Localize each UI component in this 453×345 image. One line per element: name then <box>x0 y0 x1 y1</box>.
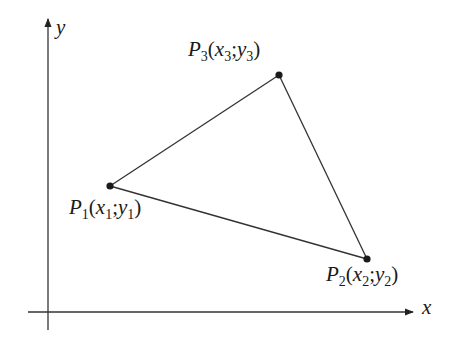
edge-p1-p3 <box>110 75 279 186</box>
p3-index: 3 <box>201 49 208 64</box>
p1-index: 1 <box>82 207 89 222</box>
p1-open-paren: ( <box>89 195 96 219</box>
x-axis-label: x <box>422 297 431 318</box>
p3-close-paren: ) <box>253 37 260 61</box>
p3-name: P <box>188 37 201 61</box>
p2-name: P <box>326 262 339 286</box>
p3-x-var: x <box>215 37 224 61</box>
p2-y-var: y <box>375 262 384 286</box>
point-label-p3: P3(x3;y3) <box>188 39 260 60</box>
p1-name: P <box>69 195 82 219</box>
p3-open-paren: ( <box>208 37 215 61</box>
p2-x-var: x <box>353 262 362 286</box>
point-label-p2: P2(x2;y2) <box>326 264 398 285</box>
edge-p3-p2 <box>279 75 367 259</box>
p2-index: 2 <box>339 274 346 289</box>
p3-y-var: y <box>237 37 246 61</box>
point-label-p1: P1(x1;y1) <box>69 197 141 218</box>
p1-x-var: x <box>96 195 105 219</box>
p2-close-paren: ) <box>391 262 398 286</box>
point-p1 <box>106 182 113 189</box>
point-p3 <box>275 71 282 78</box>
y-axis-label: y <box>56 17 65 38</box>
p1-y-var: y <box>118 195 127 219</box>
p1-close-paren: ) <box>134 195 141 219</box>
edge-p2-p1 <box>110 186 367 259</box>
p2-open-paren: ( <box>346 262 353 286</box>
